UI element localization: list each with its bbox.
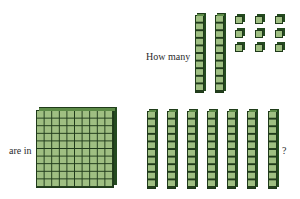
unit-cube-block — [275, 16, 283, 24]
ten-rod-block — [195, 15, 204, 93]
unit-cube-block — [235, 16, 243, 24]
ten-rod-block — [268, 111, 277, 189]
hundred-flat-block — [36, 110, 114, 188]
how-many-label: How many — [146, 52, 190, 62]
are-in-label: are in — [9, 146, 32, 156]
unit-cube-block — [235, 44, 243, 52]
ten-rod-block — [207, 111, 216, 189]
unit-cube-block — [255, 16, 263, 24]
ten-rod-block — [215, 15, 224, 93]
ten-rod-block — [147, 111, 156, 189]
ten-rod-block — [167, 111, 176, 189]
question-mark-label: ? — [282, 146, 286, 156]
unit-cube-block — [275, 44, 283, 52]
ten-rod-block — [227, 111, 236, 189]
unit-cube-block — [255, 30, 263, 38]
unit-cube-block — [255, 44, 263, 52]
unit-cube-block — [275, 30, 283, 38]
unit-cube-block — [235, 30, 243, 38]
ten-rod-block — [187, 111, 196, 189]
ten-rod-block — [247, 111, 256, 189]
